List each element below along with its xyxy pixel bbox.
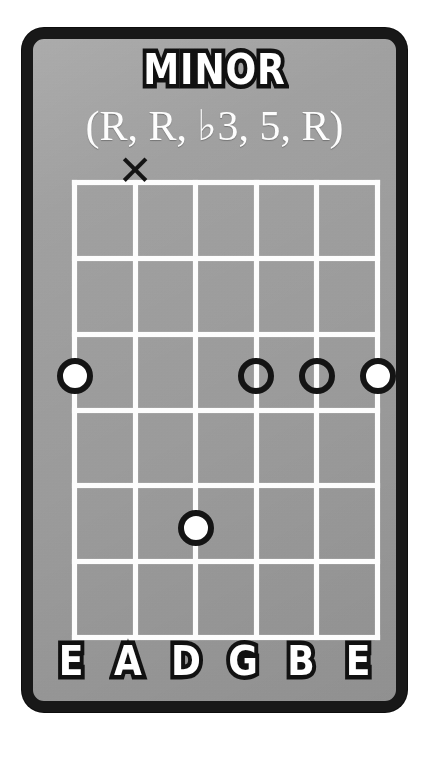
string-label-3: D (166, 637, 205, 685)
string-line-3-D (193, 180, 198, 640)
marker-string-6-fret-3 (360, 358, 396, 394)
string-line-1-E (72, 180, 77, 640)
mute-x-string-2: ✕ (115, 151, 155, 191)
fret-line-2 (72, 332, 380, 337)
marker-string-1-fret-3 (57, 358, 93, 394)
string-label-4: G (224, 637, 263, 685)
string-line-6-E (375, 180, 380, 640)
marker-string-3-fret-5 (178, 510, 214, 546)
chord-card: MINOR (R, R, ♭3, 5, R) ✕ (22, 28, 407, 712)
marker-string-4-fret-3 (238, 358, 274, 394)
string-line-2-A (133, 180, 138, 640)
chord-formula: (R, R, ♭3, 5, R) (33, 101, 396, 151)
string-line-5-B (314, 180, 319, 640)
string-label-1: E (52, 637, 91, 685)
string-label-5: B (281, 637, 320, 685)
fret-line-1 (72, 256, 380, 261)
marker-string-5-fret-3 (299, 358, 335, 394)
string-label-row: E A D G B E (49, 629, 380, 693)
fretboard-grid: ✕ (72, 180, 380, 640)
string-line-4-G (254, 180, 259, 640)
string-label-6: E (339, 637, 378, 685)
fret-line-4 (72, 483, 380, 488)
fret-line-3 (72, 408, 380, 413)
card-inner: MINOR (R, R, ♭3, 5, R) ✕ (33, 39, 396, 701)
fret-line-5 (72, 559, 380, 564)
string-label-2: A (109, 637, 148, 685)
page-title: MINOR (58, 44, 370, 96)
